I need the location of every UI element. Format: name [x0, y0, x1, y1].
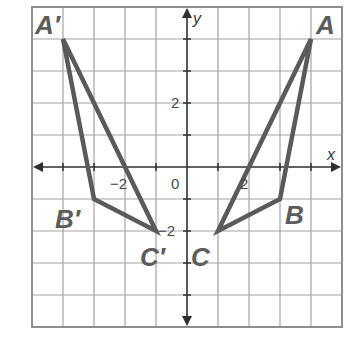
- tick-label-origin: 0: [171, 175, 179, 192]
- vertex-label-c: C: [191, 242, 211, 272]
- x-axis-left-arrow-icon: [33, 162, 43, 172]
- vertex-label-b: B: [285, 200, 304, 230]
- x-axis-label: x: [326, 146, 336, 163]
- y-axis-up-arrow-icon: [182, 8, 192, 18]
- y-axis-label: y: [192, 10, 202, 27]
- y-axis-down-arrow-icon: [182, 316, 192, 326]
- x-axis-right-arrow-icon: [331, 162, 341, 172]
- tick-label-x-neg2: −2: [110, 175, 127, 192]
- vertex-label-b-prime: B′: [55, 204, 82, 234]
- vertex-label-a-prime: A′: [34, 10, 62, 40]
- tick-label-y-neg2: −2: [158, 222, 175, 239]
- axes: [33, 8, 341, 326]
- vertex-label-a: A: [315, 10, 335, 40]
- tick-label-y-pos2: 2: [171, 94, 179, 111]
- tick-label-x-pos2: 2: [240, 175, 248, 192]
- vertex-label-c-prime: C′: [140, 242, 167, 272]
- coordinate-plane: −2 2 0 2 −2 y x A B C A′ B′ C′: [0, 0, 364, 347]
